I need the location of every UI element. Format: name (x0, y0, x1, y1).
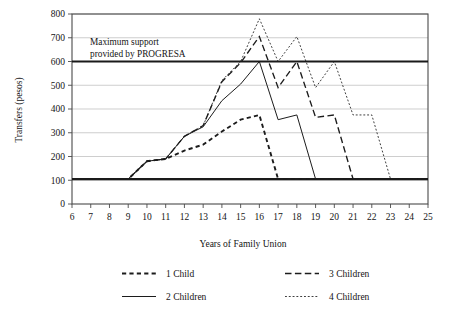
x-tick-label-12: 12 (180, 212, 190, 222)
y-tick-label-300: 300 (51, 128, 66, 138)
x-tick-label-22: 22 (367, 212, 377, 222)
y-tick-label-700: 700 (51, 33, 66, 43)
x-tick-label-17: 17 (273, 212, 283, 222)
y-axis-title: Transfers (pesos) (14, 77, 25, 142)
series-line-1-child (72, 115, 428, 179)
legend: 1 Child2 Children3 Children4 Children (122, 269, 370, 302)
chart-figure: 0100200300400500600700800 67891011121314… (0, 0, 457, 316)
transfers-line-chart: 0100200300400500600700800 67891011121314… (0, 0, 457, 316)
y-tick-label-400: 400 (51, 104, 66, 114)
x-tick-label-11: 11 (161, 212, 170, 222)
x-tick-label-19: 19 (311, 212, 321, 222)
y-tick-label-0: 0 (60, 199, 65, 209)
legend-entry-3-children: 3 Children (285, 269, 370, 279)
x-tick-label-23: 23 (386, 212, 396, 222)
x-tick-label-14: 14 (217, 212, 227, 222)
legend-entry-1-child: 1 Child (122, 269, 194, 279)
x-axis-ticks-group: 678910111213141516171819202122232425 (70, 204, 433, 222)
legend-label: 3 Children (329, 269, 370, 279)
reference-lines-group (72, 62, 428, 180)
x-tick-label-7: 7 (88, 212, 93, 222)
x-tick-label-15: 15 (236, 212, 246, 222)
y-axis-ticks-group: 0100200300400500600700800 (51, 9, 72, 209)
y-tick-label-500: 500 (51, 81, 66, 91)
x-tick-label-21: 21 (348, 212, 358, 222)
x-tick-label-24: 24 (405, 212, 415, 222)
x-tick-label-18: 18 (292, 212, 302, 222)
x-tick-label-25: 25 (423, 212, 433, 222)
y-tick-label-600: 600 (51, 57, 66, 67)
x-tick-label-6: 6 (70, 212, 75, 222)
legend-entry-4-children: 4 Children (285, 292, 370, 302)
x-axis-title: Years of Family Union (200, 239, 287, 249)
legend-label: 2 Children (166, 292, 207, 302)
x-tick-label-16: 16 (255, 212, 265, 222)
x-tick-label-13: 13 (198, 212, 208, 222)
x-tick-label-8: 8 (107, 212, 112, 222)
legend-entry-2-children: 2 Children (122, 292, 207, 302)
legend-label: 4 Children (329, 292, 370, 302)
legend-label: 1 Child (166, 269, 194, 279)
max-support-note-line2: provided by PROGRESA (90, 49, 186, 59)
max-support-note-line1: Maximum support (90, 37, 159, 47)
x-tick-label-9: 9 (126, 212, 131, 222)
y-tick-label-100: 100 (51, 176, 66, 186)
x-tick-label-10: 10 (142, 212, 152, 222)
y-tick-label-800: 800 (51, 9, 66, 19)
y-tick-label-200: 200 (51, 152, 66, 162)
series-line-2-children (72, 62, 428, 180)
x-tick-label-20: 20 (330, 212, 340, 222)
